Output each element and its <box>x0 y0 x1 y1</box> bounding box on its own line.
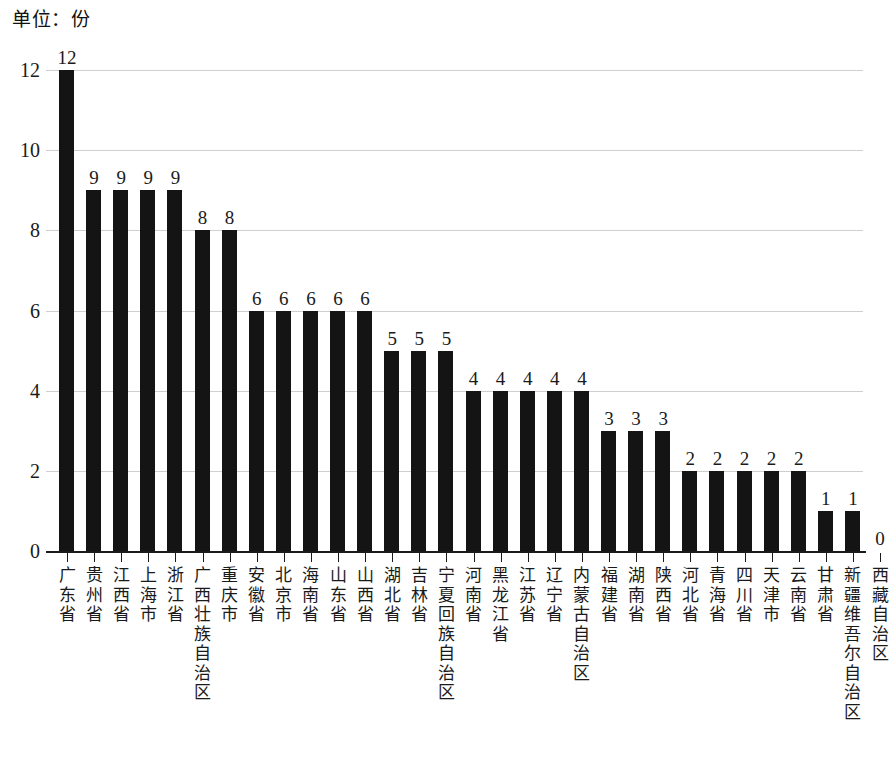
bar-value-label: 3 <box>623 409 649 428</box>
bar-value-label: 8 <box>190 208 216 227</box>
y-tick-label-10: 10 <box>0 140 40 160</box>
bar[interactable] <box>384 351 399 551</box>
bar-slot: 2 <box>677 70 703 551</box>
bar[interactable] <box>791 471 806 551</box>
bar-value-label: 12 <box>54 48 80 67</box>
x-axis-tick <box>717 553 718 562</box>
bar-slot: 9 <box>81 70 107 551</box>
bar[interactable] <box>493 391 508 551</box>
bar[interactable] <box>59 70 74 551</box>
x-axis-tick <box>148 553 149 562</box>
bar-value-label: 4 <box>488 369 514 388</box>
bar[interactable] <box>438 351 453 551</box>
bar-slot: 9 <box>108 70 134 551</box>
chart-unit-title: 单位：份 <box>12 8 90 32</box>
bar[interactable] <box>86 190 101 551</box>
x-axis-label: 甘肃省 <box>813 566 839 625</box>
x-axis-tick <box>67 553 68 562</box>
bar[interactable] <box>845 511 860 551</box>
x-axis-label: 西藏自治区 <box>867 566 893 664</box>
x-axis-tick <box>121 553 122 562</box>
x-axis-tick <box>663 553 664 562</box>
bar[interactable] <box>357 311 372 552</box>
x-axis-label: 青海省 <box>704 566 730 625</box>
x-axis-tick <box>419 553 420 562</box>
bar[interactable] <box>249 311 264 552</box>
bar-slot: 5 <box>406 70 432 551</box>
bar-slot: 8 <box>217 70 243 551</box>
bar-value-label: 1 <box>840 489 866 508</box>
bar-slot: 4 <box>488 70 514 551</box>
x-axis-tick <box>745 553 746 562</box>
bar[interactable] <box>818 511 833 551</box>
bar-slot: 2 <box>786 70 812 551</box>
bar[interactable] <box>520 391 535 551</box>
y-tick-label-6: 6 <box>0 301 40 321</box>
x-axis-label: 江苏省 <box>515 566 541 625</box>
bar[interactable] <box>709 471 724 551</box>
bar-value-label: 5 <box>433 329 459 348</box>
bar[interactable] <box>411 351 426 551</box>
bar-value-label: 9 <box>108 168 134 187</box>
bar-value-label: 8 <box>217 208 243 227</box>
x-axis-tick <box>338 553 339 562</box>
x-axis-tick <box>690 553 691 562</box>
bar-value-label: 2 <box>704 449 730 468</box>
bar-value-label: 2 <box>759 449 785 468</box>
bar[interactable] <box>547 391 562 551</box>
bar[interactable] <box>628 431 643 551</box>
bar-value-label: 3 <box>596 409 622 428</box>
x-axis-tick <box>826 553 827 562</box>
bar-slot: 9 <box>162 70 188 551</box>
bar[interactable] <box>222 230 237 551</box>
bar-value-label: 4 <box>542 369 568 388</box>
x-axis-label: 广东省 <box>54 566 80 625</box>
x-axis-label: 福建省 <box>596 566 622 625</box>
x-axis-label: 四川省 <box>732 566 758 625</box>
x-axis-tick <box>392 553 393 562</box>
bar[interactable] <box>655 431 670 551</box>
bar-value-label: 6 <box>352 289 378 308</box>
x-axis-tick <box>311 553 312 562</box>
x-axis-tick <box>528 553 529 562</box>
x-axis-label: 山西省 <box>352 566 378 625</box>
bar[interactable] <box>113 190 128 551</box>
x-axis-tick <box>284 553 285 562</box>
y-tick-label-4: 4 <box>0 381 40 401</box>
bar-slot: 5 <box>433 70 459 551</box>
x-axis-tick <box>880 553 881 562</box>
bar-slot: 0 <box>867 70 893 551</box>
bar[interactable] <box>276 311 291 552</box>
y-tick-label-2: 2 <box>0 461 40 481</box>
bar[interactable] <box>195 230 210 551</box>
x-axis-label: 湖北省 <box>379 566 405 625</box>
bar-value-label: 4 <box>461 369 487 388</box>
x-axis-tick <box>853 553 854 562</box>
x-axis-line <box>46 551 866 553</box>
bar[interactable] <box>764 471 779 551</box>
bar-slot: 3 <box>596 70 622 551</box>
bar[interactable] <box>601 431 616 551</box>
bar[interactable] <box>167 190 182 551</box>
bar-value-label: 6 <box>298 289 324 308</box>
bar[interactable] <box>574 391 589 551</box>
x-axis-tick <box>609 553 610 562</box>
chart-plot-area: 024681012 129999886666655544444333222221… <box>46 70 866 552</box>
bar[interactable] <box>682 471 697 551</box>
bar-value-label: 9 <box>162 168 188 187</box>
x-axis-label: 安徽省 <box>244 566 270 625</box>
bar[interactable] <box>330 311 345 552</box>
bar[interactable] <box>466 391 481 551</box>
x-axis-label: 河北省 <box>677 566 703 625</box>
bar[interactable] <box>303 311 318 552</box>
x-axis-label: 上海市 <box>135 566 161 625</box>
bar[interactable] <box>140 190 155 551</box>
bar-slot: 3 <box>650 70 676 551</box>
x-axis-label: 吉林省 <box>406 566 432 625</box>
bar-slot: 4 <box>569 70 595 551</box>
x-axis-tick <box>365 553 366 562</box>
bar[interactable] <box>737 471 752 551</box>
bar-slot: 4 <box>461 70 487 551</box>
x-axis-tick <box>446 553 447 562</box>
bar-value-label: 4 <box>515 369 541 388</box>
